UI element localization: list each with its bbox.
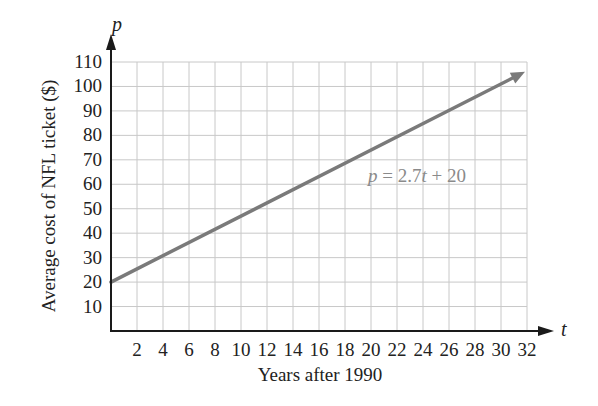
x-tick-label: 16 — [310, 339, 329, 360]
y-tick-label: 50 — [83, 198, 102, 219]
x-tick-labels: 2468101214161820222426283032 — [132, 339, 536, 360]
y-tick-label: 20 — [83, 271, 102, 292]
y-axis-variable: p — [110, 13, 122, 36]
y-tick-label: 80 — [83, 124, 102, 145]
x-axis-arrow-icon — [538, 326, 554, 336]
y-tick-label: 10 — [83, 296, 102, 317]
y-tick-labels: 102030405060708090100110 — [74, 51, 103, 317]
y-tick-label: 60 — [83, 173, 102, 194]
x-axis-variable: t — [561, 318, 567, 340]
x-tick-label: 28 — [466, 339, 485, 360]
y-tick-label: 110 — [74, 51, 102, 72]
x-tick-label: 14 — [284, 339, 304, 360]
y-tick-label: 70 — [83, 149, 102, 170]
x-tick-label: 4 — [158, 339, 168, 360]
x-tick-label: 26 — [440, 339, 459, 360]
x-tick-label: 6 — [184, 339, 194, 360]
x-tick-label: 10 — [232, 339, 251, 360]
y-tick-label: 90 — [83, 100, 102, 121]
x-tick-label: 24 — [414, 339, 434, 360]
x-tick-label: 12 — [258, 339, 277, 360]
x-tick-label: 22 — [388, 339, 407, 360]
x-tick-label: 32 — [518, 339, 537, 360]
line-chart: 2468101214161820222426283032 10203040506… — [0, 0, 598, 406]
x-tick-label: 20 — [362, 339, 381, 360]
x-tick-label: 8 — [210, 339, 220, 360]
x-axis-title: Years after 1990 — [258, 364, 383, 385]
y-tick-label: 40 — [83, 222, 102, 243]
y-tick-label: 100 — [74, 75, 103, 96]
x-tick-label: 2 — [132, 339, 142, 360]
y-axis-title: Average cost of NFL ticket ($) — [38, 80, 60, 313]
x-tick-label: 18 — [336, 339, 355, 360]
x-tick-label: 30 — [492, 339, 511, 360]
y-tick-label: 30 — [83, 247, 102, 268]
y-axis-arrow-icon — [106, 34, 116, 50]
equation-annotation: p = 2.7t + 20 — [366, 165, 466, 186]
